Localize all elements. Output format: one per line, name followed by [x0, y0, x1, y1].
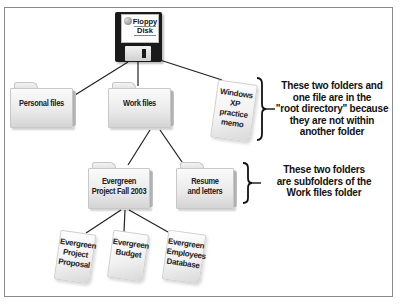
folder-work-files[interactable]: Work files: [108, 82, 171, 128]
floppy-shutter: [125, 46, 151, 61]
folder-label: Evergreen Project Fall 2003: [92, 176, 147, 196]
floppy-label-line2: Disk: [132, 26, 158, 35]
file-evergreen-budget[interactable]: Evergreen Budget: [107, 230, 149, 283]
folder-evergreen-project-fall-2003[interactable]: Evergreen Project Fall 2003: [88, 162, 150, 209]
file-label: Windows XP practice memo: [213, 87, 256, 132]
folder-resume-and-letters[interactable]: Resume and letters: [176, 162, 234, 209]
file-label: Evergreen Project Proposal: [56, 237, 94, 271]
floppy-disk-icon[interactable]: Floppy Disk: [115, 12, 162, 62]
globe-icon: [124, 17, 132, 25]
annotation-root-directory: These two folders and one file are in th…: [270, 80, 394, 138]
file-evergreen-employees-database[interactable]: Evergreen Employees Database: [162, 230, 207, 285]
floppy-label-line1: Floppy: [132, 17, 158, 26]
file-evergreen-project-proposal[interactable]: Evergreen Project Proposal: [54, 230, 97, 285]
file-label: Evergreen Budget: [111, 237, 147, 262]
folder-label: Personal files: [14, 98, 69, 108]
folder-label: Work files: [112, 98, 167, 108]
file-label: Evergreen Employees Database: [165, 237, 205, 272]
brace-subfolders: [241, 161, 261, 205]
folder-personal-files[interactable]: Personal files: [10, 82, 73, 128]
file-windows-xp-practice-memo[interactable]: Windows XP practice memo: [210, 79, 258, 142]
folder-label: Resume and letters: [179, 176, 230, 196]
annotation-subfolders: These two folders are subfolders of the …: [264, 164, 384, 199]
floppy-label: Floppy Disk: [121, 14, 159, 43]
